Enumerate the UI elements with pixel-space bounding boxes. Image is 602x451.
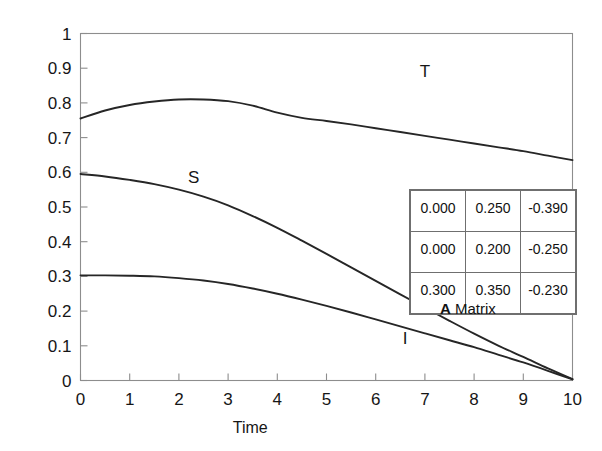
series-curve-t	[81, 99, 573, 160]
y-tick-label: 0.3	[48, 267, 72, 286]
x-tick-label: 0	[76, 390, 85, 409]
x-tick-label: 8	[469, 390, 478, 409]
y-tick-label: 0.6	[48, 163, 72, 182]
series-label-i: I	[403, 329, 408, 348]
y-tick-label: 0.8	[48, 94, 72, 113]
matrix-row: 0.0000.250-0.390	[411, 191, 576, 232]
y-tick-label: 0	[62, 372, 71, 391]
x-tick-label: 9	[519, 390, 528, 409]
y-tick-label: 0.9	[48, 59, 72, 78]
y-tick-label: 1	[62, 25, 71, 44]
x-axis-ticks: 012345678910	[76, 374, 582, 409]
matrix-row: 0.0000.200-0.250	[411, 232, 576, 273]
x-tick-label: 5	[322, 390, 331, 409]
y-axis-ticks: 00.10.20.30.40.50.60.70.80.91	[48, 25, 88, 391]
series-label-group: TSI	[188, 62, 430, 348]
matrix-cell: -0.230	[521, 273, 576, 314]
matrix-cell: -0.250	[521, 232, 576, 273]
x-tick-label: 3	[223, 390, 232, 409]
series-label-s: S	[188, 168, 199, 187]
matrix-caption-symbol: A	[440, 300, 451, 317]
y-tick-label: 0.7	[48, 129, 72, 148]
matrix-cell: 0.200	[466, 232, 521, 273]
x-tick-label: 10	[563, 390, 582, 409]
x-tick-label: 7	[420, 390, 429, 409]
matrix-caption-text: Matrix	[451, 300, 496, 317]
a-matrix-table: 0.0000.250-0.3900.0000.200-0.2500.3000.3…	[409, 189, 577, 315]
a-matrix-caption: A Matrix	[440, 300, 496, 317]
matrix-cell: 0.000	[411, 232, 466, 273]
matrix-cell: 0.250	[466, 191, 521, 232]
y-tick-label: 0.1	[48, 337, 72, 356]
matrix-cell: -0.390	[521, 191, 576, 232]
y-tick-label: 0.2	[48, 302, 72, 321]
x-tick-label: 1	[125, 390, 134, 409]
matrix-grid: 0.0000.250-0.3900.0000.200-0.2500.3000.3…	[410, 190, 576, 314]
y-tick-label: 0.5	[48, 198, 72, 217]
series-label-t: T	[420, 62, 430, 81]
x-tick-label: 6	[371, 390, 380, 409]
y-tick-label: 0.4	[48, 233, 72, 252]
x-tick-label: 4	[273, 390, 282, 409]
x-tick-label: 2	[174, 390, 183, 409]
chart-figure: 00.10.20.30.40.50.60.70.80.91 0123456789…	[0, 0, 602, 451]
matrix-cell: 0.000	[411, 191, 466, 232]
x-axis-title: Time	[233, 419, 268, 436]
